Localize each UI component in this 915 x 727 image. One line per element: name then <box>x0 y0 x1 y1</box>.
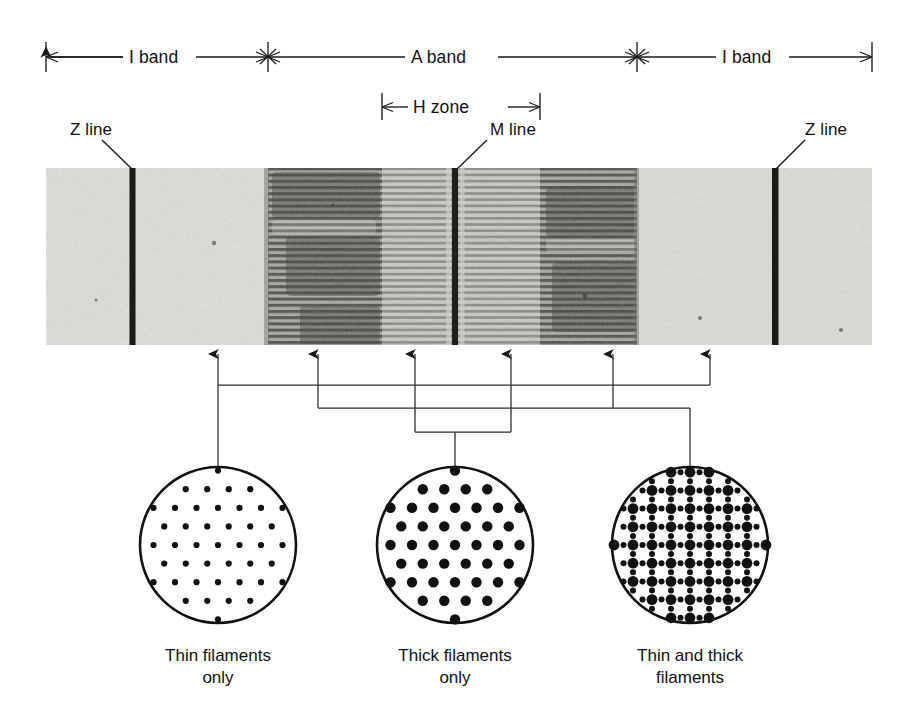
filament-dot-thick <box>742 576 753 587</box>
filament-dot-thin <box>226 598 232 604</box>
filament-dot-thin <box>725 569 731 575</box>
filament-dot-thin <box>215 505 221 511</box>
filament-dot-thin <box>279 505 285 511</box>
filament-dot-thin <box>279 542 285 548</box>
filament-dot-thin <box>744 515 750 521</box>
filament-dot-thin <box>236 542 242 548</box>
filament-dot-thin <box>744 533 750 539</box>
filament-dot-thick <box>704 576 715 587</box>
filament-dot-thin <box>706 569 712 575</box>
filament-dot-thick <box>647 576 658 587</box>
filament-dot-thin <box>697 542 703 548</box>
filament-dot-thin <box>640 560 646 566</box>
filament-dot-thick <box>742 558 753 569</box>
filament-dot-thin <box>678 578 684 584</box>
z-line-left-band <box>130 168 136 345</box>
filament-dot-thin <box>621 524 627 530</box>
filament-dot-thin <box>735 524 741 530</box>
filament-dot-thick <box>450 614 460 624</box>
filament-dot-thin <box>172 542 178 548</box>
leader-z-line-left <box>102 140 133 170</box>
filament-dot-thin <box>269 523 275 529</box>
filament-dot-thick <box>450 465 460 475</box>
pointer-leader-lines <box>102 140 805 170</box>
filament-dot-thin <box>640 506 646 512</box>
filament-dot-thin <box>668 478 674 484</box>
filament-dot-thin <box>215 468 221 474</box>
filament-dot-thick <box>407 503 417 513</box>
filament-dot-thick <box>385 503 395 513</box>
filament-dot-thin <box>668 588 674 594</box>
filament-dot-thin <box>706 551 712 557</box>
filament-dot-thin <box>649 497 655 503</box>
filament-dot-thin <box>649 515 655 521</box>
filament-dot-thick <box>704 540 715 551</box>
filament-dot-thick <box>685 576 696 587</box>
filament-dot-thick <box>723 594 734 605</box>
filament-dot-thin <box>621 578 627 584</box>
filament-dot-thin <box>659 597 665 603</box>
filament-dot-thin <box>630 588 636 594</box>
filament-dot-thick <box>704 521 715 532</box>
filament-dot-thin <box>716 524 722 530</box>
filament-dot-thick <box>471 503 481 513</box>
filament-dot-thin <box>659 487 665 493</box>
filament-dot-thick <box>471 577 481 587</box>
filament-dot-thin <box>279 579 285 585</box>
filament-dot-thin <box>247 561 253 567</box>
filament-dot-thick <box>628 540 639 551</box>
filament-dot-thin <box>754 578 760 584</box>
caption-thin-only: Thin filaments only <box>118 645 318 690</box>
filament-dot-thin <box>735 487 741 493</box>
filament-dot-thin <box>735 506 741 512</box>
filament-dot-thick <box>514 540 524 550</box>
filament-dot-thin <box>668 551 674 557</box>
filament-dot-thick <box>450 503 460 513</box>
filament-dot-thick <box>628 503 639 514</box>
filament-dot-thin <box>640 597 646 603</box>
filament-dot-thick <box>647 485 658 496</box>
z-line-right-band <box>772 168 779 345</box>
filament-dot-thin <box>697 487 703 493</box>
filament-dot-thin <box>215 542 221 548</box>
filament-dot-thin <box>659 524 665 530</box>
filament-dot-thick <box>666 521 677 532</box>
filament-dot-thin <box>621 506 627 512</box>
filament-dot-thick <box>704 612 715 623</box>
filament-dot-thick <box>666 612 677 623</box>
filament-dot-thin <box>697 506 703 512</box>
filament-dot-thick <box>723 503 734 514</box>
filament-dot-thin <box>215 616 221 622</box>
filament-dot-thin <box>706 515 712 521</box>
filament-dot-thick <box>685 540 696 551</box>
filament-dot-thin <box>640 487 646 493</box>
filament-dot-thick <box>704 467 715 478</box>
filament-dot-thin <box>754 560 760 566</box>
filament-dot-thin <box>649 588 655 594</box>
sarcomere-figure: I band A band I band H zone Z line M lin… <box>0 0 915 727</box>
filament-dot-thick <box>407 577 417 587</box>
filament-dot-thick <box>396 521 406 531</box>
filament-dot-thin <box>744 497 750 503</box>
filament-dot-thin <box>150 505 156 511</box>
filament-dot-thin <box>716 597 722 603</box>
filament-dot-thick <box>685 612 696 623</box>
filament-dot-thin <box>226 523 232 529</box>
filament-dot-thin <box>621 560 627 566</box>
filament-dot-thin <box>236 505 242 511</box>
filament-dot-thin <box>706 588 712 594</box>
filament-dot-thin <box>640 542 646 548</box>
filament-dot-thick <box>428 503 438 513</box>
filament-dot-thin <box>258 579 264 585</box>
filament-dot-thin <box>735 542 741 548</box>
filament-dot-thin <box>678 469 684 475</box>
label-z-line-right: Z line <box>805 120 847 140</box>
filament-dot-thin <box>630 497 636 503</box>
filament-dot-thick <box>647 594 658 605</box>
filament-dot-thick <box>666 576 677 587</box>
filament-dot-thin <box>744 588 750 594</box>
label-h-zone: H zone <box>413 97 469 118</box>
filament-dot-thin <box>754 506 760 512</box>
filament-dot-thin <box>204 486 210 492</box>
filament-dot-thin <box>236 579 242 585</box>
